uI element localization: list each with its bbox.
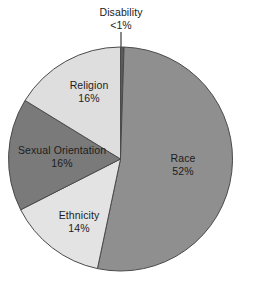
pie-chart: Disability <1% Race 52% Ethnicity 14% Se… [0,0,253,284]
pie-slices [9,47,233,271]
pie-chart-canvas [0,0,253,284]
